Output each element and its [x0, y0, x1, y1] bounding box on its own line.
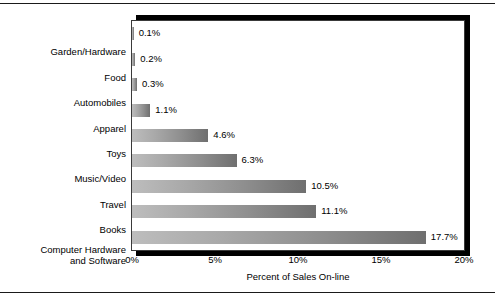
x-axis-tick-label: 15% [371, 254, 390, 266]
bar-row: 10.5% [132, 180, 464, 193]
page-rule-top [0, 3, 495, 4]
bar-row: 0.1% [132, 27, 464, 40]
bar-row: 0.3% [132, 78, 464, 91]
category-label: Garden/Hardware [0, 46, 126, 57]
bar [132, 104, 150, 117]
x-axis-tick-label: 0% [125, 254, 139, 266]
bars-layer: 0.1%0.2%0.3%1.1%4.6%6.3%10.5%11.1%17.7% [132, 21, 464, 250]
bar-row: 0.2% [132, 53, 464, 66]
x-axis-tick-labels: 0%5%10%15%20% [131, 254, 465, 268]
bar [132, 154, 237, 167]
bar-row: 17.7% [132, 231, 464, 244]
bar [132, 78, 137, 91]
bar-value-label: 1.1% [155, 103, 177, 116]
bar-value-label: 6.3% [242, 153, 264, 166]
bar-chart-figure: Garden/HardwareFoodAutomobilesApparelToy… [0, 0, 495, 302]
bar-row: 1.1% [132, 104, 464, 117]
page-rule-bottom [0, 292, 495, 293]
bar [132, 27, 134, 40]
bar-value-label: 11.1% [321, 204, 347, 217]
x-axis-tick-label: 20% [454, 254, 473, 266]
category-label: Music/Video [0, 173, 126, 184]
bar-value-label: 0.3% [142, 77, 164, 90]
bar [132, 180, 306, 193]
x-axis-tick-label: 5% [208, 254, 222, 266]
bar [132, 129, 208, 142]
bar-value-label: 0.1% [139, 26, 161, 39]
bar-row: 11.1% [132, 205, 464, 218]
category-label: Books [0, 224, 126, 235]
bar [132, 205, 316, 218]
category-label: Apparel [0, 123, 126, 134]
bar [132, 231, 426, 244]
category-label: Travel [0, 199, 126, 210]
category-label: Food [0, 72, 126, 83]
bar-value-label: 0.2% [140, 52, 162, 65]
bar-row: 4.6% [132, 129, 464, 142]
category-label: Automobiles [0, 97, 126, 108]
category-label: Computer Hardware and Software [0, 244, 126, 266]
bar-row: 6.3% [132, 154, 464, 167]
x-axis-tick-label: 10% [288, 254, 307, 266]
category-label: Toys [0, 148, 126, 159]
bar [132, 53, 135, 66]
bar-value-label: 4.6% [213, 128, 235, 141]
bar-value-label: 17.7% [431, 230, 458, 243]
y-axis-category-labels: Garden/HardwareFoodAutomobilesApparelToy… [0, 20, 126, 251]
bar-value-label: 10.5% [311, 179, 338, 192]
x-axis-title: Percent of Sales On-line [131, 271, 465, 283]
